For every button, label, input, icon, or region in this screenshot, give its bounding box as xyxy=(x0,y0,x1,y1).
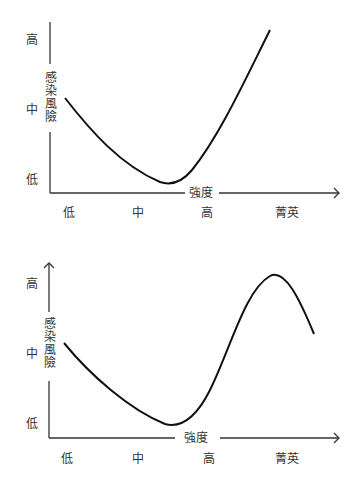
chart2-y-tick-low: 低 xyxy=(26,417,38,431)
chart2-x-tick-high: 高 xyxy=(203,452,215,466)
y-title-char: 險 xyxy=(43,357,57,370)
chart1-x-tick-mid: 中 xyxy=(132,206,144,220)
chart1-axes xyxy=(50,22,339,198)
chart2-y-tick-high: 高 xyxy=(26,277,38,291)
chart2-x-tick-low: 低 xyxy=(61,452,73,466)
chart1-y-axis-title: 感 染 風 險 xyxy=(44,72,58,124)
chart2-x-axis-title: 強度 xyxy=(184,431,208,445)
chart2-curve xyxy=(64,275,314,425)
chart1-y-tick-mid: 中 xyxy=(26,103,38,117)
chart2-x-tick-mid: 中 xyxy=(132,452,144,466)
y-title-char: 險 xyxy=(44,111,58,124)
chart2-y-tick-mid: 中 xyxy=(26,347,38,361)
chart1-y-tick-high: 高 xyxy=(26,33,38,47)
chart1-y-tick-low: 低 xyxy=(26,173,38,187)
chart2-y-axis-title: 感 染 風 險 xyxy=(43,318,57,370)
chart1-curve xyxy=(65,30,270,184)
chart2-x-tick-elite: 菁英 xyxy=(275,452,299,466)
chart1-x-axis-title: 強度 xyxy=(189,186,213,200)
chart1-x-tick-low: 低 xyxy=(63,206,75,220)
chart1-x-tick-elite: 菁英 xyxy=(275,206,299,220)
chart1-x-tick-high: 高 xyxy=(201,206,213,220)
